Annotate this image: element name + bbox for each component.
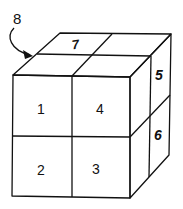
label-cube-6: 6 xyxy=(154,127,162,143)
label-cube-3: 3 xyxy=(92,161,100,177)
callout-label: 8 xyxy=(13,10,21,27)
label-cube-5: 5 xyxy=(155,67,163,83)
label-cube-1: 1 xyxy=(37,101,45,117)
front-horizontal-divider xyxy=(12,136,130,137)
top-depth-divider xyxy=(37,54,151,56)
label-cube-2: 2 xyxy=(37,162,45,178)
cube-diagram: 8 1 4 2 3 7 5 6 xyxy=(0,0,183,209)
label-cube-7: 7 xyxy=(71,37,81,53)
callout-arrow-icon xyxy=(10,28,30,55)
label-cube-4: 4 xyxy=(96,101,104,117)
